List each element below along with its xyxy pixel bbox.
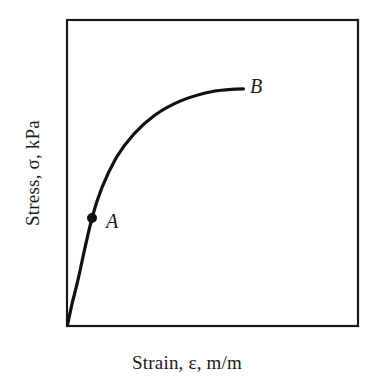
stress-strain-figure: Stress, σ, kPa Strain, ε, m/m A B: [0, 0, 374, 390]
y-axis-label-container: Stress, σ, kPa: [0, 0, 66, 345]
x-axis-label: Strain, ε, m/m: [0, 352, 374, 374]
point-a-label: A: [106, 210, 118, 233]
plot-frame: [67, 20, 358, 326]
y-axis-label: Stress, σ, kPa: [22, 120, 44, 226]
point-a-marker: [87, 213, 97, 223]
stress-strain-curve: [68, 89, 244, 325]
point-b-label: B: [250, 75, 262, 98]
